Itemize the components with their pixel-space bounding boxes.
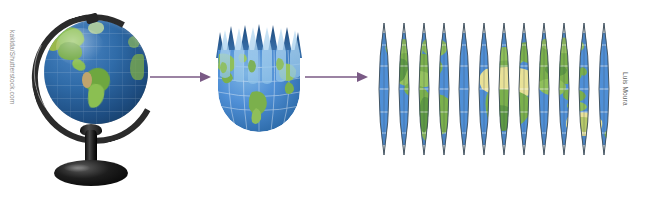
globe-base-highlight: [64, 164, 90, 172]
globe-projection-figure: kaklda/Shutterstock.com: [0, 0, 645, 199]
credit-right-watermark: Luis Moura: [622, 72, 629, 106]
globe-stand-base: [54, 160, 128, 186]
peeled-globe: [216, 24, 302, 136]
arrow-peeled-to-gores: [305, 70, 369, 88]
gore-graticule: [374, 21, 616, 157]
peeled-globe-body: [218, 50, 300, 134]
credit-left-watermark: kaklda/Shutterstock.com: [9, 30, 16, 104]
gore-map: [374, 21, 616, 157]
desk-globe: [28, 12, 152, 192]
gore-central-meridians: [384, 25, 604, 153]
gore-outlines: [379, 23, 609, 155]
arrow-globe-to-peeled: [150, 70, 212, 88]
